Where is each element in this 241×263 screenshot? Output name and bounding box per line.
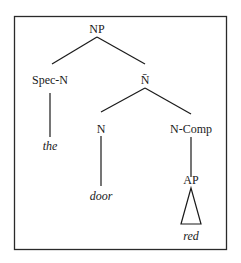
node-n-comp: N-Comp bbox=[170, 122, 212, 136]
word-the: the bbox=[43, 139, 58, 153]
node-n-bar: N̄ bbox=[141, 73, 150, 87]
node-ap: AP bbox=[183, 173, 199, 187]
node-np: NP bbox=[89, 22, 105, 36]
word-red: red bbox=[183, 229, 200, 243]
node-spec-n: Spec-N bbox=[32, 73, 68, 87]
node-n: N bbox=[97, 122, 106, 136]
syntax-tree-diagram: NP Spec-N N̄ N N-Comp AP the door red bbox=[0, 0, 241, 263]
word-door: door bbox=[90, 189, 113, 203]
